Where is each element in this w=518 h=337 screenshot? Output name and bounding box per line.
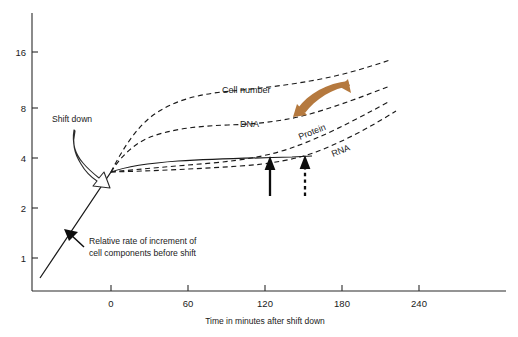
brown-curved-arrow-icon: [293, 79, 351, 117]
marker-arrow-solid: [265, 156, 276, 196]
series-labels-group: Cell number DNA Protein RNA: [222, 85, 351, 159]
x-axis-title: Time in minutes after shift down: [205, 316, 325, 326]
series-label-cell-number: Cell number: [222, 85, 271, 95]
x-tick-label-60: 60: [183, 298, 194, 309]
y-tick-label-2: 2: [21, 203, 26, 214]
series-curve-relative-rate: [40, 156, 312, 278]
shift-down-arrow-icon: [73, 130, 110, 188]
chart-svg: 16 8 4 2 1 0 60 120 180 240 Time in minu…: [0, 0, 518, 337]
marker-arrow-dashed: [300, 155, 311, 196]
annotation-shift-down-label: Shift down: [52, 114, 92, 124]
y-tick-label-1: 1: [21, 253, 26, 264]
x-tick-label-120: 120: [257, 298, 273, 309]
annotation-relative-rate: Relative rate of increment of cell compo…: [64, 229, 197, 258]
series-label-protein: Protein: [297, 122, 327, 142]
y-ticks-group: 16 8 4 2 1: [15, 47, 38, 264]
x-tick-label-240: 240: [411, 298, 427, 309]
series-label-dna: DNA: [240, 119, 259, 129]
chart-figure: 16 8 4 2 1 0 60 120 180 240 Time in minu…: [0, 0, 518, 337]
annotation-relative-rate-line2: cell components before shift: [89, 248, 197, 258]
y-tick-label-8: 8: [21, 103, 26, 114]
series-curve-cell-number: [111, 60, 390, 172]
series-curve-dna: [111, 86, 390, 172]
y-tick-label-4: 4: [21, 153, 26, 164]
x-tick-label-0: 0: [108, 298, 113, 309]
x-ticks-group: 0 60 120 180 240: [108, 285, 427, 309]
annotation-relative-rate-line1: Relative rate of increment of: [89, 236, 197, 246]
y-tick-label-16: 16: [15, 47, 26, 58]
annotation-shift-down: Shift down: [52, 114, 110, 188]
x-tick-label-180: 180: [334, 298, 350, 309]
